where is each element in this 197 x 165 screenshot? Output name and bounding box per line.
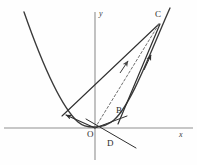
figure-canvas xyxy=(0,0,197,165)
point-label-o: O xyxy=(87,130,94,139)
point-label-c: C xyxy=(155,10,161,19)
point-label-b: B xyxy=(116,106,122,115)
vector-bc xyxy=(118,24,160,124)
arrowhead-oc xyxy=(120,61,128,73)
x-axis-label: x xyxy=(179,131,183,139)
y-axis-label: y xyxy=(99,10,103,18)
geometry-figure: y x O B C D xyxy=(0,0,197,165)
point-label-d: D xyxy=(107,139,114,148)
parabola-curve xyxy=(24,8,170,127)
segment-o-b xyxy=(95,116,127,128)
arrowhead-bc xyxy=(144,55,151,70)
